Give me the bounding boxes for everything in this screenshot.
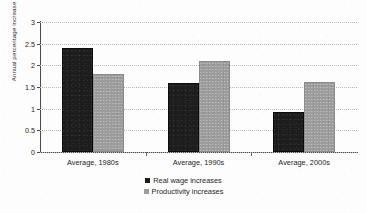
y-tick-label: 0 <box>31 148 35 157</box>
x-category-label: Average, 2000s <box>278 158 330 167</box>
y-axis-title: Annual percentage increase <box>10 0 17 102</box>
x-category-label: Average, 1990s <box>173 158 225 167</box>
legend-item: Productivity increases <box>144 187 224 196</box>
y-tick-mark <box>37 109 40 110</box>
y-tick-mark <box>37 65 40 66</box>
legend-item: Real wage increases <box>145 176 222 185</box>
bar-chart: Annual percentage increase 00.511.522.53… <box>0 0 367 213</box>
bar <box>304 82 335 152</box>
plot-area: 00.511.522.53 <box>40 22 357 152</box>
y-gridline <box>40 22 357 23</box>
y-gridline <box>40 44 357 45</box>
y-tick-label: 3 <box>31 18 35 27</box>
legend-swatch-icon <box>144 189 149 194</box>
y-tick-label: 2.5 <box>25 39 35 48</box>
bar <box>93 74 124 152</box>
bar <box>273 112 304 152</box>
y-tick-label: 1.5 <box>25 83 35 92</box>
legend-label: Real wage increases <box>153 176 222 185</box>
bar <box>199 61 230 152</box>
legend-swatch-icon <box>145 178 150 183</box>
y-tick-mark <box>37 22 40 23</box>
y-tick-mark <box>37 87 40 88</box>
chart-legend: Real wage increases Productivity increas… <box>0 176 367 196</box>
x-tick-mark <box>146 152 147 156</box>
y-gridline <box>40 152 357 153</box>
y-tick-label: 0.5 <box>25 126 35 135</box>
x-category-label: Average, 1980s <box>67 158 119 167</box>
y-tick-label: 2 <box>31 61 35 70</box>
y-tick-mark <box>37 44 40 45</box>
x-tick-mark <box>251 152 252 156</box>
y-tick-label: 1 <box>31 104 35 113</box>
y-tick-mark <box>37 152 40 153</box>
bar <box>62 48 93 152</box>
bar <box>168 83 199 152</box>
legend-label: Productivity increases <box>152 187 224 196</box>
y-tick-mark <box>37 130 40 131</box>
